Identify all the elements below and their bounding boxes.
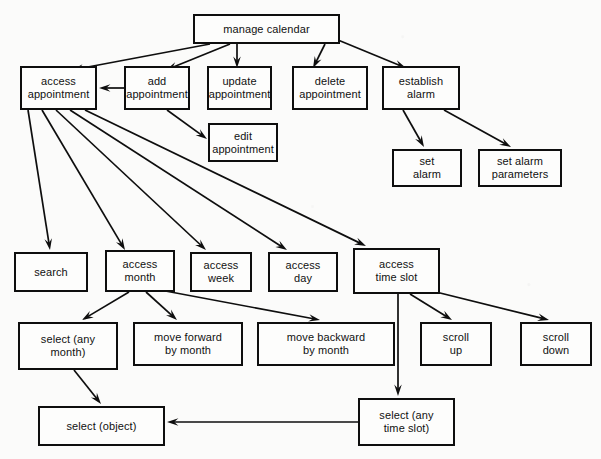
edge-establish_alarm-to-set_alarm_parameters (444, 110, 511, 147)
node-label: search (32, 266, 70, 279)
edge-access_appointment-to-access_week (56, 110, 206, 250)
node-establish_alarm: establishalarm (382, 66, 460, 110)
node-label: updateappointment (207, 75, 273, 101)
edge-manage_calendar-to-delete_appointment (313, 44, 325, 68)
edge-access_month-to-move_backward (160, 290, 320, 322)
edge-access_time_slot-to-select_any_time_slot (394, 294, 402, 396)
node-label: select (anymonth) (39, 333, 97, 359)
node-label: move forwardby month (152, 331, 224, 357)
node-label: accesstime slot (374, 258, 420, 284)
edge-access_month-to-move_forward (146, 292, 177, 320)
edge-access_appointment-to-search (28, 110, 52, 250)
node-search: search (14, 252, 88, 292)
node-label: establishalarm (397, 75, 445, 101)
node-label: move backwardby month (285, 331, 367, 357)
edge-establish_alarm-to-set_alarm (403, 110, 424, 147)
edge-manage_calendar-to-update_appointment (233, 44, 241, 68)
node-label: scrolldown (541, 331, 572, 357)
node-label: accessmonth (121, 258, 160, 284)
node-select_any_time_slot: select (anytime slot) (358, 398, 455, 446)
node-scroll_down: scrolldown (520, 322, 592, 366)
node-label: scrollup (441, 331, 471, 357)
node-access_time_slot: accesstime slot (353, 248, 440, 294)
node-label: accessappointment (26, 75, 92, 101)
node-label: select (object) (65, 420, 139, 433)
edge-access_month-to-select_any_month (82, 292, 129, 320)
node-label: set alarmparameters (490, 155, 551, 181)
node-add_appointment: addappointment (124, 66, 190, 110)
node-set_alarm_parameters: set alarmparameters (478, 149, 562, 187)
edge-access_time_slot-to-scroll_up (410, 294, 452, 320)
node-label: addappointment (124, 75, 190, 101)
node-label: accessweek (202, 259, 241, 285)
node-move_forward: move forwardby month (133, 322, 243, 366)
edge-access_time_slot-to-scroll_down (428, 290, 549, 321)
node-label: accessday (284, 259, 323, 285)
node-label: select (anytime slot) (377, 409, 435, 435)
node-access_appointment: accessappointment (20, 66, 97, 110)
edge-add_appointment-to-access_appointment (99, 84, 124, 92)
node-label: setalarm (411, 155, 443, 181)
node-select_any_month: select (anymonth) (18, 322, 118, 370)
node-move_backward: move backwardby month (257, 322, 395, 366)
edge-manage_calendar-to-establish_alarm (338, 40, 406, 68)
edge-add_appointment-to-edit_appointment (167, 110, 207, 139)
node-select_object: select (object) (38, 406, 165, 446)
edge-access_appointment-to-access_month (42, 110, 125, 250)
node-label: deleteappointment (297, 75, 363, 101)
node-update_appointment: updateappointment (207, 66, 272, 110)
edge-select_any_month-to-select_object (74, 370, 101, 404)
node-label: manage calendar (221, 23, 312, 36)
node-access_week: accessweek (190, 252, 252, 292)
node-access_month: accessmonth (105, 250, 175, 292)
node-access_day: accessday (268, 252, 338, 292)
node-delete_appointment: deleteappointment (292, 66, 368, 110)
node-scroll_up: scrollup (420, 322, 492, 366)
edge-select_any_time_slot-to-select_object (167, 418, 358, 426)
node-manage_calendar: manage calendar (193, 14, 340, 44)
node-edit_appointment: editappointment (208, 123, 278, 162)
node-set_alarm: setalarm (392, 149, 462, 187)
node-label: editappointment (210, 130, 276, 156)
diagram-canvas: manage calendaraccessappointmentaddappoi… (0, 0, 601, 459)
